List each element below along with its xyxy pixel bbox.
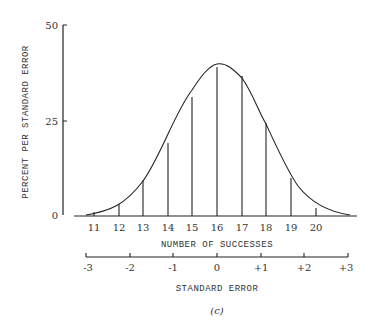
x-tick-17: 17 [236, 222, 249, 233]
x-tick-labels: 11 12 13 14 15 16 17 18 19 20 [88, 222, 323, 233]
x-tick-20: 20 [310, 222, 323, 233]
se-tick--1: -1 [168, 262, 178, 273]
chart: 50 25 0 PERCENT PER STANDARD ERROR 11 12… [0, 0, 377, 329]
se-tick-+2: +2 [297, 262, 312, 273]
figure-caption: (c) [210, 305, 224, 316]
x-tick-11: 11 [88, 222, 101, 233]
se-tick-+1: +1 [254, 262, 269, 273]
se-tick-+3: +3 [339, 262, 354, 273]
y-axis-label: PERCENT PER STANDARD ERROR [21, 45, 31, 199]
se-tick--3: -3 [83, 262, 93, 273]
x-tick-19: 19 [285, 222, 298, 233]
histogram-spikes [94, 67, 316, 216]
se-tick--2: -2 [125, 262, 135, 273]
x-tick-15: 15 [186, 222, 199, 233]
standard-error-label: STANDARD ERROR [176, 284, 259, 294]
y-tick-label-50: 50 [45, 20, 58, 31]
normal-curve [86, 64, 350, 215]
y-tick-label-0: 0 [52, 210, 58, 221]
y-tick-label-25: 25 [45, 116, 58, 127]
standard-error-axis [86, 253, 348, 257]
x-tick-13: 13 [137, 222, 150, 233]
x-tick-16: 16 [211, 222, 224, 233]
x-tick-18: 18 [260, 222, 273, 233]
standard-error-tick-labels: -3 -2 -1 0 +1 +2 +3 [83, 262, 353, 273]
se-tick-0: 0 [214, 262, 220, 273]
x-axis-label: NUMBER OF SUCCESSES [161, 240, 273, 250]
x-tick-12: 12 [113, 222, 126, 233]
x-tick-14: 14 [162, 222, 175, 233]
